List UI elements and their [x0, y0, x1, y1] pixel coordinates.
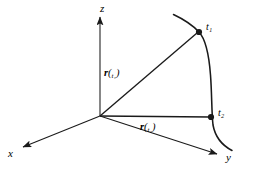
point-label-t1: t₁ — [206, 22, 212, 32]
diagram-canvas — [0, 0, 254, 174]
vector-paren-close-t2: ) — [152, 121, 156, 132]
axis-line-y — [100, 116, 217, 154]
vector-label-r-t2: r(t₂) — [140, 122, 155, 134]
vector-line-r-t2 — [100, 116, 210, 117]
vector-diagram-figure: z x y r(t₁) r(t₂) t₁ t₂ — [0, 0, 254, 174]
axis-label-z: z — [100, 3, 104, 14]
axis-label-y: y — [226, 152, 231, 163]
point-marker-t2 — [208, 114, 214, 120]
axis-line-x — [23, 116, 100, 147]
trajectory-curve — [174, 15, 233, 151]
axis-label-x: x — [8, 148, 13, 159]
vector-paren-close-t1: ) — [116, 67, 120, 78]
point-label-t2: t₂ — [218, 108, 224, 118]
point-marker-t1 — [196, 29, 202, 35]
vector-label-r-t1: r(t₁) — [104, 68, 119, 80]
